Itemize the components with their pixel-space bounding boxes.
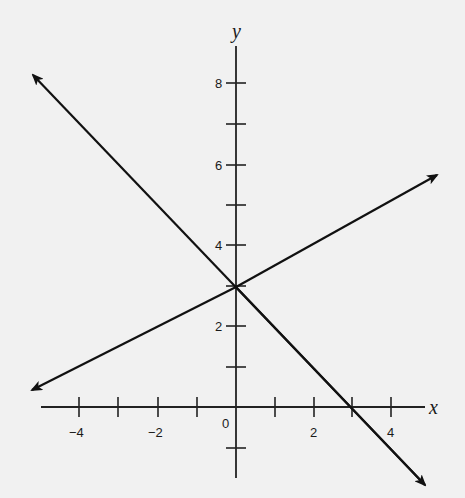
y-tick-label-8: 8 — [215, 76, 222, 91]
line-2-arrow-start — [32, 287, 236, 390]
x-tick-label-neg4: −4 — [69, 425, 84, 440]
y-axis-label: y — [230, 20, 241, 43]
x-axis-label: x — [428, 396, 438, 418]
origin-label: 0 — [222, 416, 229, 431]
x-tick-label-4: 4 — [387, 425, 394, 440]
y-tick-label-4: 4 — [215, 238, 222, 253]
y-tick-label-2: 2 — [215, 319, 222, 334]
line-2-increasing — [236, 175, 437, 287]
line-1-arrow-end — [236, 287, 425, 485]
x-tick-label-neg2: −2 — [148, 425, 163, 440]
coordinate-plane: y x 8 6 4 2 −4 −2 0 2 4 — [0, 0, 465, 498]
x-tick-label-2: 2 — [310, 425, 317, 440]
y-tick-label-6: 6 — [215, 158, 222, 173]
